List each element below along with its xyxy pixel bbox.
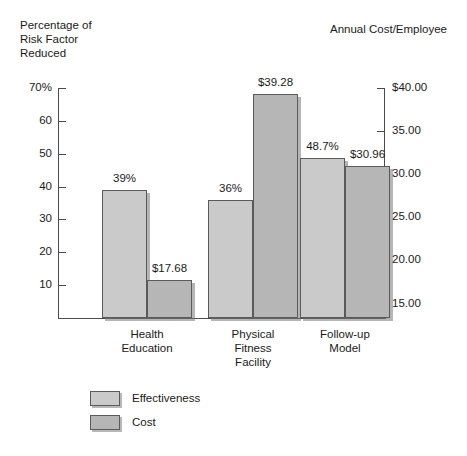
bar-cost [147,280,192,318]
x-axis-category-labels: Health EducationPhysical Fitness Facilit… [58,327,385,387]
left-axis-tick-label: 60 [39,114,52,126]
bar-value-label-effectiveness: 39% [92,172,157,184]
left-axis-tick-labels: 70%605040302010 [8,88,52,318]
right-axis-tick-label: 25.00 [392,210,421,222]
legend-label: Effectiveness [132,392,200,404]
legend-swatch [90,415,120,430]
bar-value-label-cost: $39.28 [243,76,308,88]
left-axis-title: Percentage of Risk Factor Reduced [20,18,92,60]
legend-item: Cost [90,410,200,434]
right-axis-tick-labels: $40.0035.0030.0025.0020.0015.00 [392,88,462,318]
bar-effectiveness [300,158,345,318]
chart-legend: EffectivenessCost [90,386,200,434]
legend-label: Cost [132,416,156,428]
left-axis-tick-label: 40 [39,180,52,192]
bar-value-label-cost: $30.96 [335,148,400,160]
left-axis-tick-label: 50 [39,147,52,159]
bars-layer: 39%$17.6836%$39.2848.7%$30.96 [58,88,385,319]
bar-cost [253,94,298,318]
bar-effectiveness [102,190,147,318]
left-axis-tick-label: 70% [29,81,52,93]
bar-cost [345,166,390,318]
right-axis-tick-label: $40.00 [392,81,427,93]
left-axis-tick-label: 10 [39,278,52,290]
right-axis-tick-label: 20.00 [392,253,421,265]
dual-axis-bar-chart: Percentage of Risk Factor Reduced Annual… [0,0,467,456]
category-label: Health Education [87,327,207,355]
legend-item: Effectiveness [90,386,200,410]
right-axis-tick-label: 35.00 [392,124,421,136]
bar-value-label-cost: $17.68 [137,262,202,274]
right-axis-title: Annual Cost/Employee [330,22,447,36]
bar-effectiveness [208,200,253,318]
category-label: Follow-up Model [285,327,405,355]
left-axis-tick-label: 20 [39,245,52,257]
right-axis-tick-label: 15.00 [392,297,421,309]
left-axis-tick-label: 30 [39,212,52,224]
right-axis-tick-label: 30.00 [392,167,421,179]
legend-swatch [90,391,120,406]
